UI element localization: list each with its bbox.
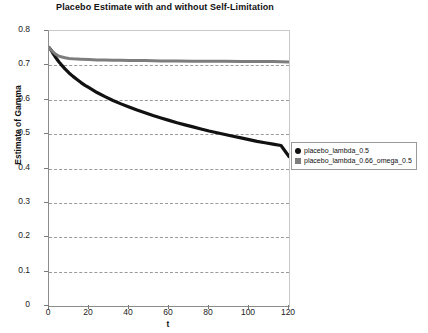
plot-frame xyxy=(48,30,290,307)
x-tick-label: 20 xyxy=(73,308,103,317)
series-lines xyxy=(49,31,289,306)
y-tick-label: 0 xyxy=(4,300,30,309)
series-line xyxy=(49,48,289,62)
x-tick-mark xyxy=(288,305,289,309)
legend: placebo_lambda_0.5placebo_lambda_0.66_om… xyxy=(291,142,417,170)
y-tick-label: 0.1 xyxy=(4,266,30,275)
y-tick-label: 0.8 xyxy=(4,25,30,34)
legend-square-icon xyxy=(295,158,301,164)
x-tick-mark xyxy=(88,305,89,309)
y-tick-label: 0.7 xyxy=(4,59,30,68)
x-tick-label: 60 xyxy=(153,308,183,317)
x-tick-label: 100 xyxy=(233,308,263,317)
legend-label: placebo_lambda_0.66_omega_0.5 xyxy=(304,156,412,166)
legend-dot-icon xyxy=(295,148,301,154)
x-tick-mark xyxy=(248,305,249,309)
x-tick-mark xyxy=(48,305,49,309)
x-axis-title: t xyxy=(48,319,288,329)
y-tick-label: 0.6 xyxy=(4,94,30,103)
legend-item[interactable]: placebo_lambda_0.66_omega_0.5 xyxy=(295,156,412,166)
y-tick-label: 0.2 xyxy=(4,231,30,240)
x-tick-label: 80 xyxy=(193,308,223,317)
legend-item[interactable]: placebo_lambda_0.5 xyxy=(295,146,412,156)
x-tick-mark xyxy=(128,305,129,309)
x-tick-mark xyxy=(208,305,209,309)
legend-label: placebo_lambda_0.5 xyxy=(304,146,369,156)
y-axis-title: Estimate of Gamma xyxy=(13,55,23,195)
x-tick-mark xyxy=(168,305,169,309)
chart-figure: Placebo Estimate with and without Self-L… xyxy=(0,0,428,333)
series-line xyxy=(49,48,289,157)
x-tick-label: 40 xyxy=(113,308,143,317)
y-tick-label: 0.3 xyxy=(4,197,30,206)
plot-area xyxy=(49,31,289,306)
x-tick-label: 120 xyxy=(273,308,303,317)
y-tick-label: 0.5 xyxy=(4,128,30,137)
x-tick-label: 0 xyxy=(33,308,63,317)
y-tick-label: 0.4 xyxy=(4,163,30,172)
chart-title: Placebo Estimate with and without Self-L… xyxy=(0,2,330,12)
